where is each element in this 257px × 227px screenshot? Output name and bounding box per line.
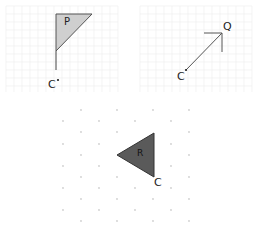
arrow-q: [185, 33, 222, 71]
grid-panel-q: [140, 6, 252, 92]
label-c-panel-r: C: [154, 176, 162, 189]
label-c-panel-q: C: [177, 70, 185, 83]
shape-p: [56, 14, 92, 81]
dot-grid-panel-r: [62, 109, 190, 222]
shape-r: [117, 133, 154, 177]
label-p: P: [64, 16, 70, 27]
label-r: R: [137, 148, 143, 158]
label-q: Q: [223, 20, 232, 33]
center-point-q: [185, 69, 187, 71]
label-c-panel-p: C: [48, 78, 56, 91]
center-point-p: [57, 79, 59, 81]
diagram-canvas: [0, 0, 257, 227]
